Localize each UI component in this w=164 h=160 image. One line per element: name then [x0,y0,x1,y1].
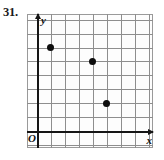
exercise-number: 31. [3,6,18,19]
y-axis-label: y [41,15,46,26]
gridline-horizontal [27,48,153,49]
y-axis [37,14,39,148]
gridline-horizontal [27,117,153,118]
x-axis [27,131,153,133]
gridline-horizontal [27,75,153,76]
gridline-horizontal [27,145,153,146]
exercise-figure: 31. y x O [0,0,164,160]
gridline-horizontal [27,34,153,35]
y-axis-arrow-icon [35,13,41,19]
gridline-horizontal [27,103,153,104]
gridline-horizontal [27,89,153,90]
coordinate-plane: y x O [27,14,153,148]
origin-label: O [28,133,36,144]
x-axis-label: x [147,135,153,146]
